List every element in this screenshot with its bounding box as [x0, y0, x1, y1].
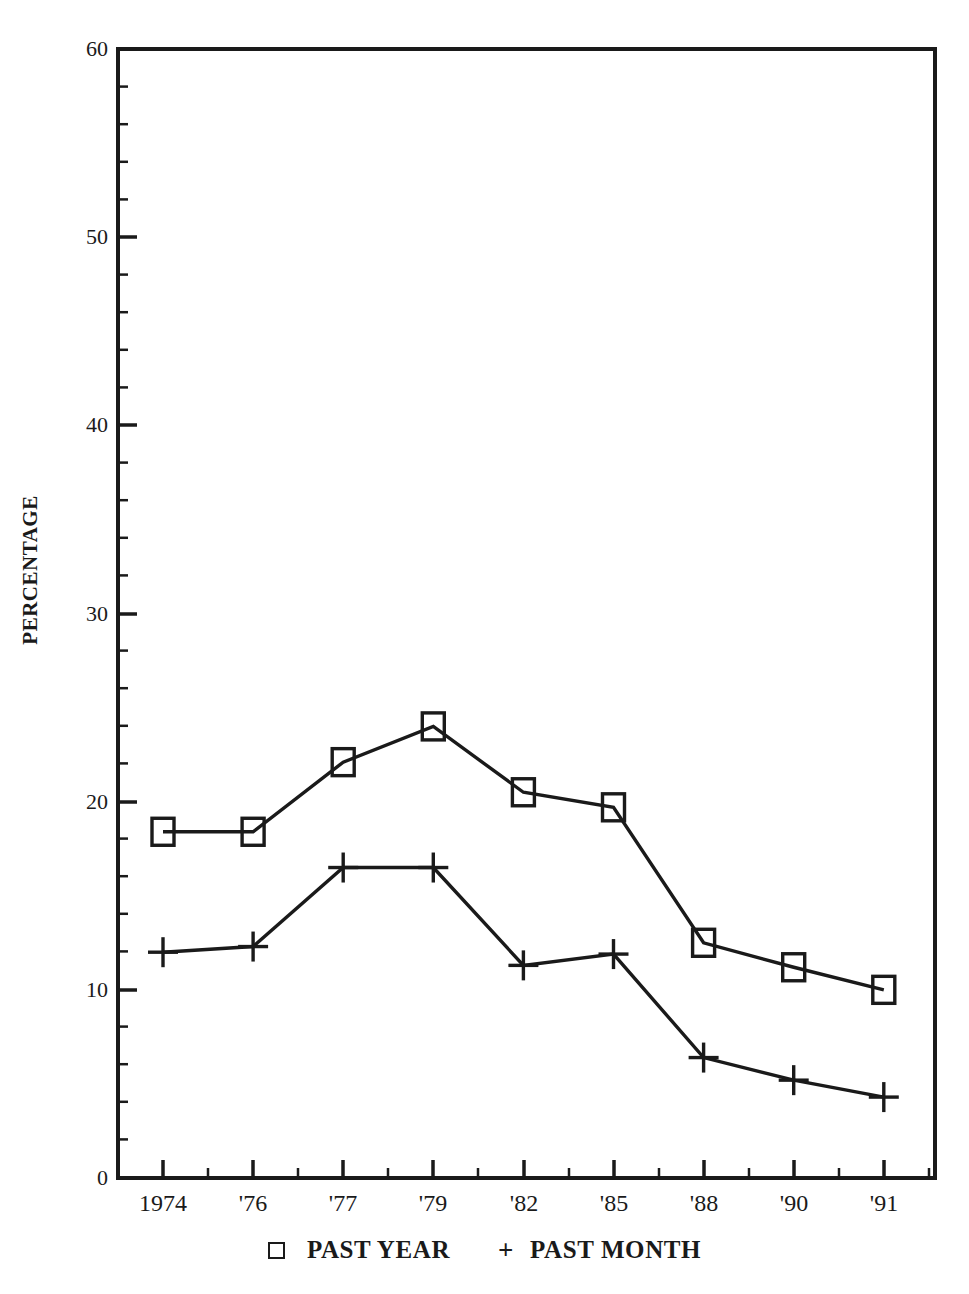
chart-legend: PAST YEAR + PAST MONTH — [0, 1236, 969, 1264]
x-axis-major-ticks — [163, 1160, 884, 1178]
series-past-year-line — [163, 726, 884, 989]
legend-label-past-month: PAST MONTH — [530, 1236, 701, 1264]
y-tick-label-0: 0 — [48, 1165, 108, 1191]
y-tick-label-10: 10 — [48, 977, 108, 1003]
square-marker-icon — [268, 1242, 285, 1259]
y-tick-label-40: 40 — [48, 412, 108, 438]
y-tick-label-30: 30 — [48, 601, 108, 627]
y-tick-label-50: 50 — [48, 224, 108, 250]
y-axis-title: PERCENTAGE — [18, 440, 43, 700]
y-tick-label-20: 20 — [48, 789, 108, 815]
y-axis-major-ticks — [118, 49, 137, 1178]
legend-label-past-year: PAST YEAR — [307, 1236, 450, 1264]
x-tick-label-91: '91 — [829, 1190, 939, 1217]
legend-entry-past-year: PAST YEAR — [268, 1236, 450, 1264]
line-chart-plot — [0, 0, 969, 1294]
chart-figure: PERCENTAGE 60 50 40 30 20 10 0 1974 '76 … — [0, 0, 969, 1294]
plot-frame — [118, 49, 935, 1178]
series-past-month-line — [163, 868, 884, 1098]
plus-marker-icon: + — [496, 1237, 516, 1264]
y-tick-label-60: 60 — [48, 36, 108, 62]
legend-entry-past-month: + PAST MONTH — [496, 1236, 701, 1264]
